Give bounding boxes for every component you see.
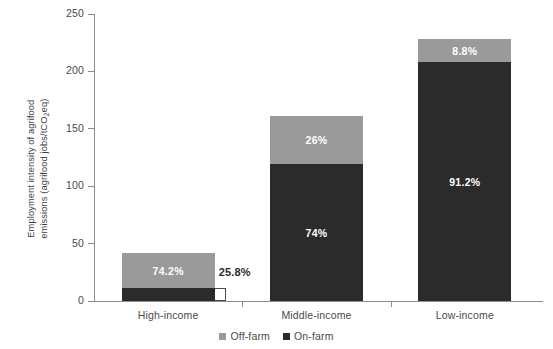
callout-bracket-icon <box>215 288 226 301</box>
legend-swatch-icon <box>283 333 290 340</box>
bar-high-income[interactable]: 25.8%74.2% <box>122 253 215 301</box>
x-tick-mark <box>391 301 392 307</box>
legend-swatch-icon <box>219 333 226 340</box>
bar-low-income[interactable]: 91.2%8.8% <box>418 39 511 301</box>
bar-segment-off-farm[interactable]: 74.2% <box>122 253 215 289</box>
y-axis-title-line2: emissions (agrifood jobs/tCO2eq) <box>38 44 53 294</box>
chart-legend: Off-farmOn-farm <box>0 330 553 342</box>
y-tick-label: 150 <box>46 122 84 134</box>
legend-item-on-farm[interactable]: On-farm <box>283 330 334 342</box>
bar-segment-on-farm[interactable]: 91.2% <box>418 62 511 301</box>
plot-area: 25.8%74.2%74%26%91.2%8.8% <box>94 14 539 301</box>
chart-figure: Employment intensity of agrifood emissio… <box>0 0 553 349</box>
bar-segment-off-farm[interactable]: 26% <box>270 116 363 164</box>
x-category-label-high-income: High-income <box>94 309 242 321</box>
y-axis-title-subscript: 2 <box>41 112 50 116</box>
bar-segment-label-off-farm: 26% <box>306 134 328 146</box>
legend-label: On-farm <box>294 330 334 342</box>
y-tick-label: 200 <box>46 64 84 76</box>
x-category-label-middle-income: Middle-income <box>242 309 390 321</box>
bar-segment-label-off-farm: 8.8% <box>452 45 477 57</box>
y-axis-title: Employment intensity of agrifood emissio… <box>25 44 52 294</box>
x-category-label-low-income: Low-income <box>391 309 539 321</box>
legend-item-off-farm[interactable]: Off-farm <box>219 330 270 342</box>
legend-label: Off-farm <box>230 330 270 342</box>
bar-segment-on-farm[interactable]: 74% <box>270 164 363 301</box>
y-axis-title-line1: Employment intensity of agrifood <box>26 100 36 238</box>
x-tick-mark <box>242 301 243 307</box>
y-tick-label: 250 <box>46 7 84 19</box>
bar-segment-label-on-farm: 91.2% <box>449 176 480 188</box>
callout-label: 25.8% <box>219 266 251 278</box>
bar-segment-label-on-farm: 74% <box>306 227 328 239</box>
y-axis-title-line2-post: eq) <box>39 99 49 113</box>
x-axis-line <box>94 301 543 302</box>
bar-segment-off-farm[interactable]: 8.8% <box>418 39 511 62</box>
y-axis-title-line2-pre: emissions (agrifood jobs/tCO <box>39 116 49 238</box>
y-tick-label: 50 <box>46 237 84 249</box>
y-tick-label: 100 <box>46 179 84 191</box>
bar-segment-label-off-farm: 74.2% <box>153 265 184 277</box>
bar-middle-income[interactable]: 74%26% <box>270 116 363 301</box>
y-tick-label: 0 <box>46 294 84 306</box>
bar-segment-on-farm[interactable]: 25.8% <box>122 288 215 301</box>
